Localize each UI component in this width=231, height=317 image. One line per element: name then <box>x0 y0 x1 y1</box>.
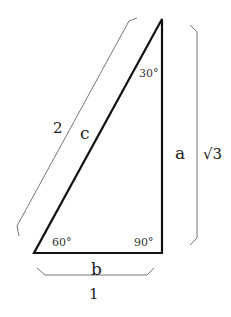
hypotenuse-label: c <box>80 123 90 143</box>
base-length: 1 <box>89 285 99 303</box>
vertical-side-bracket <box>190 25 197 245</box>
hypotenuse-length: 2 <box>53 119 63 137</box>
vertical-side-length: √3 <box>203 145 222 163</box>
triangle-diagram: c 2 a √3 b 1 30° 60° 90° <box>0 0 231 317</box>
base-label: b <box>91 259 102 279</box>
angle-bottom-right: 90° <box>134 236 154 249</box>
vertical-side-label: a <box>175 143 185 163</box>
angle-top: 30° <box>139 67 159 80</box>
hypotenuse-bracket <box>17 18 137 236</box>
angle-bottom-left: 60° <box>52 236 72 249</box>
